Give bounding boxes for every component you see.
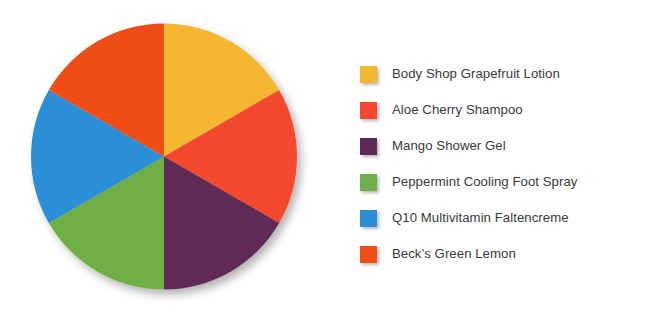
legend-swatch-icon [360,210,377,227]
legend-swatch-icon [360,102,377,119]
pie-svg [31,22,297,292]
legend-item-mango-shower-gel[interactable]: Mango Shower Gel [360,128,630,164]
legend-swatch-icon [360,246,377,263]
legend-swatch-icon [360,138,377,155]
legend-item-becks-green-lemon[interactable]: Beck’s Green Lemon [360,236,630,272]
legend-item-peppermint-cooling-foot-spray[interactable]: Peppermint Cooling Foot Spray [360,164,630,200]
legend-item-label: Beck’s Green Lemon [392,247,516,260]
pie-slice-group [31,23,297,289]
legend-item-label: Body Shop Grapefruit Lotion [392,67,560,80]
chart-legend: Body Shop Grapefruit Lotion Aloe Cherry … [360,56,630,272]
legend-item-label: Aloe Cherry Shampoo [392,103,523,116]
legend-item-body-shop-grapefruit-lotion[interactable]: Body Shop Grapefruit Lotion [360,56,630,92]
pie-chart-figure: Body Shop Grapefruit Lotion Aloe Cherry … [0,0,648,313]
legend-item-aloe-cherry-shampoo[interactable]: Aloe Cherry Shampoo [360,92,630,128]
legend-item-label: Q10 Multivitamin Faltencreme [392,211,569,224]
legend-item-label: Peppermint Cooling Foot Spray [392,175,577,188]
legend-swatch-icon [360,66,377,83]
pie-chart-graphic [31,22,297,292]
legend-item-label: Mango Shower Gel [392,139,506,152]
legend-swatch-icon [360,174,377,191]
legend-item-q10-multivitamin-faltencreme[interactable]: Q10 Multivitamin Faltencreme [360,200,630,236]
